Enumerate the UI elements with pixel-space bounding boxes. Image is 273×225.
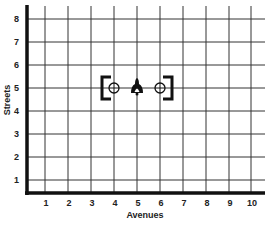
x-tick-7: 7: [181, 198, 186, 208]
y-tick-1: 1: [14, 175, 19, 185]
x-tick-8: 8: [204, 198, 209, 208]
x-tick-labels: 1 2 3 4 5 6 7 8 9 10: [43, 198, 257, 208]
y-tick-6: 6: [14, 60, 19, 70]
y-tick-7: 7: [14, 37, 19, 47]
y-tick-3: 3: [14, 129, 19, 139]
y-tick-5: 5: [14, 83, 19, 93]
street-grid-diagram: 1 2 3 4 5 6 7 8 1 2 3 4 5 6 7 8 9 10 Ave…: [0, 0, 273, 225]
x-tick-2: 2: [66, 198, 71, 208]
x-tick-9: 9: [227, 198, 232, 208]
y-tick-4: 4: [14, 106, 19, 116]
y-tick-labels: 1 2 3 4 5 6 7 8: [14, 14, 19, 185]
x-tick-4: 4: [112, 198, 117, 208]
avenue-gridlines: [45, 6, 251, 193]
x-tick-3: 3: [89, 198, 94, 208]
x-axis-title: Avenues: [126, 210, 163, 220]
x-tick-5: 5: [135, 198, 140, 208]
x-tick-1: 1: [43, 198, 48, 208]
y-axis-title: Streets: [2, 85, 12, 116]
x-tick-6: 6: [158, 198, 163, 208]
bell-icon: [131, 78, 143, 96]
x-tick-10: 10: [247, 198, 257, 208]
y-tick-2: 2: [14, 152, 19, 162]
y-tick-8: 8: [14, 14, 19, 24]
